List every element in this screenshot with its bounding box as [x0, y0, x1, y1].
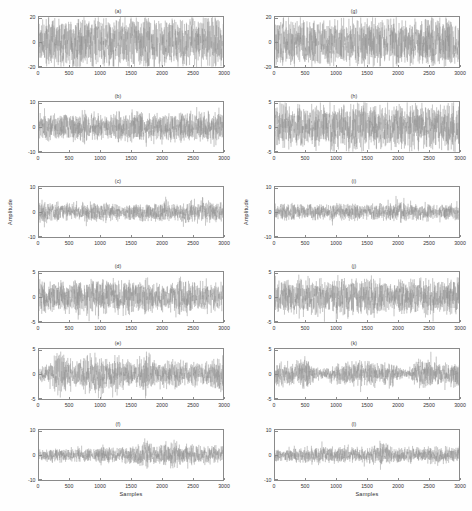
x-tick-mark	[100, 235, 101, 237]
x-tick-label: 3000	[218, 154, 230, 162]
x-tick-label: 3000	[454, 401, 466, 409]
x-tick-mark	[398, 478, 399, 480]
y-tick-mark	[275, 127, 278, 128]
x-tick-mark	[224, 397, 225, 399]
x-tick-mark	[367, 65, 368, 67]
x-tick-label: 1500	[361, 324, 373, 332]
x-tick-labels: 050010001500200025003000	[274, 324, 460, 333]
x-tick-mark	[224, 320, 225, 322]
x-tick-label: 2000	[156, 69, 168, 77]
plot-area	[274, 271, 460, 323]
x-tick-mark	[100, 150, 101, 152]
y-tick-mark	[275, 212, 278, 213]
y-tick-mark	[39, 103, 42, 104]
x-tick-label: 1000	[94, 69, 106, 77]
x-tick-mark	[69, 397, 70, 399]
y-tick-mark	[275, 297, 278, 298]
x-tick-mark	[336, 235, 337, 237]
y-tick-label: 0	[33, 452, 36, 458]
plot-area	[38, 271, 224, 323]
x-tick-mark	[162, 235, 163, 237]
x-tick-mark	[367, 320, 368, 322]
x-tick-mark	[100, 478, 101, 480]
x-tick-label: 0	[37, 401, 40, 409]
y-tick-label: 0	[269, 371, 272, 377]
x-tick-label: 2500	[187, 401, 199, 409]
x-tick-mark	[224, 150, 225, 152]
x-tick-mark	[193, 65, 194, 67]
y-tick-mark	[39, 273, 42, 274]
y-tick-mark	[39, 212, 42, 213]
x-tick-label: 0	[37, 324, 40, 332]
x-tick-label: 500	[65, 324, 74, 332]
y-tick-mark	[39, 431, 42, 432]
x-tick-label: 0	[273, 482, 276, 490]
y-tick-mark	[275, 151, 278, 152]
x-tick-mark	[336, 478, 337, 480]
signal-trace	[39, 102, 223, 152]
y-axis-label: Amplitude	[241, 186, 251, 238]
x-tick-mark	[162, 397, 163, 399]
y-tick-mark	[39, 479, 42, 480]
y-tick-label: -5	[267, 396, 272, 402]
x-tick-mark	[274, 150, 275, 152]
y-tick-label: 0	[33, 371, 36, 377]
x-tick-label: 3000	[454, 482, 466, 490]
x-tick-label: 500	[301, 154, 310, 162]
y-tick-mark	[275, 479, 278, 480]
x-tick-label: 0	[37, 482, 40, 490]
plot-area	[274, 348, 460, 400]
x-tick-mark	[38, 397, 39, 399]
x-tick-label: 0	[273, 324, 276, 332]
y-tick-mark	[39, 455, 42, 456]
x-tick-mark	[162, 150, 163, 152]
y-tick-mark	[275, 455, 278, 456]
x-tick-labels: 050010001500200025003000	[38, 154, 224, 163]
panel-k: (k)50-5050010001500200025003000	[236, 340, 472, 425]
signal-trace	[39, 349, 223, 399]
y-axis-label-text: Amplitude	[243, 199, 249, 225]
x-tick-mark	[367, 235, 368, 237]
y-tick-label: 5	[269, 269, 272, 275]
x-tick-mark	[100, 397, 101, 399]
x-tick-label: 1500	[125, 154, 137, 162]
x-tick-label: 1500	[125, 69, 137, 77]
x-tick-label: 500	[65, 69, 74, 77]
y-tick-label: -20	[28, 64, 36, 70]
x-tick-label: 3000	[218, 69, 230, 77]
x-tick-label: 1000	[94, 401, 106, 409]
x-tick-label: 0	[37, 154, 40, 162]
panel-i: (i)Amplitude100-100500100015002000250030…	[236, 178, 472, 263]
x-tick-label: 500	[301, 239, 310, 247]
x-tick-label: 2500	[187, 154, 199, 162]
x-tick-label: 1000	[94, 482, 106, 490]
y-tick-label: 5	[269, 346, 272, 352]
x-tick-mark	[100, 65, 101, 67]
x-tick-mark	[398, 235, 399, 237]
y-tick-mark	[275, 321, 278, 322]
x-tick-labels: 050010001500200025003000	[274, 69, 460, 78]
x-tick-label: 500	[301, 482, 310, 490]
panel-c: (c)Amplitude100-100500100015002000250030…	[0, 178, 236, 263]
x-tick-label: 0	[273, 401, 276, 409]
x-tick-label: 2000	[156, 324, 168, 332]
x-tick-label: 1000	[330, 401, 342, 409]
plot-area	[274, 16, 460, 68]
y-tick-label: -5	[31, 319, 36, 325]
x-tick-mark	[69, 235, 70, 237]
x-tick-label: 3000	[454, 324, 466, 332]
x-tick-mark	[274, 320, 275, 322]
x-tick-mark	[193, 320, 194, 322]
x-tick-label: 1500	[125, 324, 137, 332]
x-tick-mark	[460, 235, 461, 237]
x-tick-mark	[305, 478, 306, 480]
y-tick-label: 0	[269, 124, 272, 130]
x-tick-label: 3000	[218, 324, 230, 332]
x-tick-mark	[460, 150, 461, 152]
y-tick-label: 0	[269, 294, 272, 300]
x-tick-mark	[162, 65, 163, 67]
signal-trace	[275, 102, 459, 152]
plot-area	[274, 429, 460, 481]
y-tick-mark	[275, 42, 278, 43]
y-tick-label: -20	[264, 64, 272, 70]
